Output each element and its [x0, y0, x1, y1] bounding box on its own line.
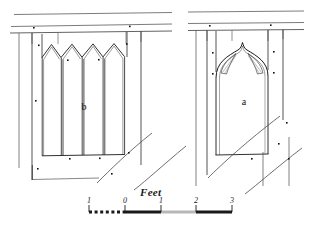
- scale-tick-label-1: 1: [159, 196, 163, 205]
- panel-b-ground-line-2: [134, 146, 186, 190]
- panel-b-arcade-inner: [44, 46, 123, 60]
- scale-tick-label--1: 1: [87, 196, 91, 205]
- panel-a-cusp-right-vein-1: [249, 55, 262, 73]
- panel-a-ground-line-1: [208, 116, 280, 178]
- panel-label-b: b: [82, 101, 87, 112]
- panel-b-band-upper: [11, 24, 172, 27]
- panel-a-band-upper: [188, 23, 304, 24]
- panel-b-arcade-outer: [42, 44, 125, 58]
- scale-tick-label-3: 3: [230, 196, 234, 205]
- panel-b-group: [10, 13, 186, 191]
- panel-a-ground-line-2: [245, 148, 302, 194]
- panel-a-band-lower: [188, 30, 304, 31]
- panel-a-top-edge: [188, 11, 304, 12]
- scale-tick-label-0: 0: [123, 196, 127, 205]
- scale-tick-label-2: 2: [194, 196, 198, 205]
- panel-a-sill: [216, 154, 269, 155]
- panel-b-plinth: [32, 178, 99, 180]
- panel-a-stipple-marks: [209, 24, 290, 159]
- scale-bar-group: [89, 205, 232, 212]
- panel-b-band-lower: [10, 31, 172, 33]
- panel-b-sill: [42, 155, 125, 156]
- panel-b-top-edge: [14, 13, 172, 15]
- panel-label-a: a: [242, 96, 246, 107]
